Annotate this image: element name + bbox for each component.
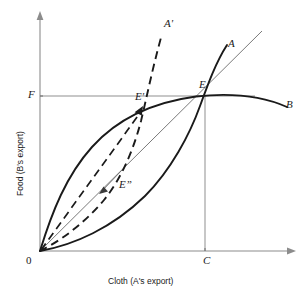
x-axis-title: Cloth (A's export) [108, 277, 173, 286]
tick-marks-group [40, 96, 205, 251]
country-a-offer-curve [40, 45, 227, 251]
label-origin: 0 [26, 255, 32, 266]
label-y-tick-f: F [28, 89, 35, 100]
label-equilibrium-e-prime: E' [135, 91, 144, 102]
label-equilibrium-e-double-prime: E” [119, 179, 132, 190]
y-axis-arrow-icon [37, 11, 44, 20]
terms-of-trade-ray [40, 31, 262, 251]
offer-curve-figure: A' A B E E' E” F C 0 Food (B's export) C… [0, 0, 304, 295]
label-a-curve: A [228, 38, 235, 49]
diagram-canvas [0, 0, 304, 295]
y-axis-title: Food (B's export) [16, 131, 25, 196]
label-a-prime-curve: A' [164, 18, 173, 29]
axes-group [37, 11, 296, 254]
x-axis-arrow-icon [287, 248, 296, 255]
label-b-curve: B [286, 99, 293, 110]
country-a-shifted-offer-curve [40, 34, 162, 251]
label-x-tick-c: C [203, 255, 210, 266]
shift-arrow-left-icon [99, 187, 108, 195]
label-equilibrium-e: E [199, 79, 206, 90]
